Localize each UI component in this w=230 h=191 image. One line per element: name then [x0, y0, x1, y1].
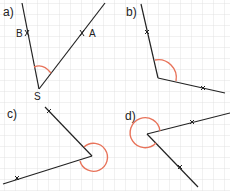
angle-exercise-figure: a) B A S b) c) d) [0, 0, 230, 191]
panel-label-c: c) [7, 107, 17, 121]
figure-canvas: a) B A S b) c) d) [0, 0, 230, 191]
point-label-b: B [16, 28, 23, 39]
panel-label-a: a) [3, 5, 14, 19]
point-label-a: A [89, 28, 96, 39]
panel-label-d: d) [125, 109, 136, 123]
point-label-s: S [34, 91, 41, 102]
panel-label-b: b) [126, 5, 137, 19]
